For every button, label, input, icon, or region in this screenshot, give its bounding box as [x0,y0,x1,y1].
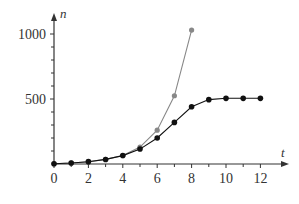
series-line-exponential [54,30,192,164]
data-point-logistic [189,104,195,110]
chart-container: tn0246810125001000 [0,0,299,204]
data-point-logistic [240,96,246,102]
data-point-logistic [120,153,126,159]
x-axis-arrow-icon [281,161,289,167]
data-point-exponential [172,93,177,98]
y-tick-label: 1000 [18,27,46,42]
data-point-logistic [86,159,92,165]
data-point-logistic [172,120,178,126]
data-point-logistic [223,96,229,102]
x-tick-label: 12 [253,171,267,186]
data-point-logistic [51,161,57,167]
data-point-logistic [154,135,160,141]
data-point-logistic [103,157,109,163]
x-tick-label: 8 [188,171,195,186]
data-point-exponential [189,28,194,33]
data-point-logistic [68,160,74,166]
x-tick-label: 6 [154,171,161,186]
y-tick-label: 500 [25,92,46,107]
data-point-logistic [206,97,212,103]
x-tick-label: 2 [85,171,92,186]
x-tick-label: 0 [51,171,58,186]
x-axis-label: t [281,145,285,160]
data-point-exponential [155,128,160,133]
y-axis-label: n [60,6,67,21]
y-axis-arrow-icon [51,13,57,21]
data-point-logistic [137,146,143,152]
x-tick-label: 4 [119,171,126,186]
line-chart: tn0246810125001000 [0,0,299,204]
axes: tn0246810125001000 [18,6,289,186]
x-tick-label: 10 [219,171,233,186]
data-point-logistic [258,96,264,102]
series-group [51,28,263,167]
